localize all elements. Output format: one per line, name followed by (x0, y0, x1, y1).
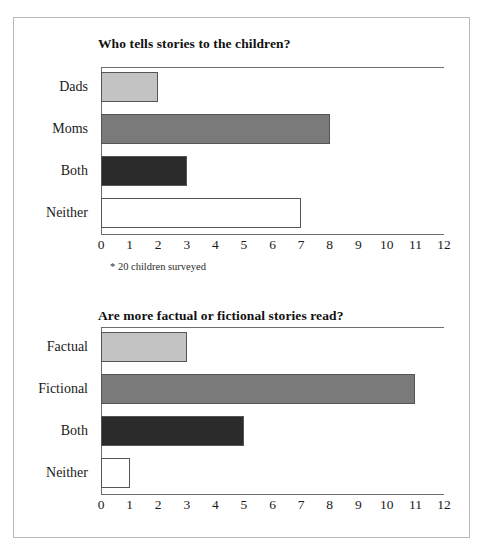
bar-row: Neither (101, 198, 444, 228)
bar-moms (101, 114, 330, 144)
x-tick-11: 11 (409, 237, 422, 253)
chart-who-tells-stories: Who tells stories to the children? DadsM… (14, 18, 471, 290)
x-tick-5: 5 (241, 497, 248, 513)
x-tick-12: 12 (437, 497, 451, 513)
bar-row: Both (101, 156, 444, 186)
x-tick-3: 3 (183, 497, 190, 513)
x-tick-8: 8 (326, 497, 333, 513)
footnote-top: * 20 children surveyed (110, 261, 206, 272)
bar-row: Fictional (101, 374, 444, 404)
category-label-moms: Moms (52, 121, 88, 137)
x-tick-2: 2 (155, 237, 162, 253)
x-tick-10: 10 (380, 497, 394, 513)
x-tick-4: 4 (212, 237, 219, 253)
category-label-both: Both (61, 163, 88, 179)
x-axis-ticks-bottom: 0123456789101112 (101, 497, 444, 517)
bar-fictional (101, 374, 415, 404)
bar-row: Dads (101, 72, 444, 102)
axis-bottom-rule-bottom-chart (101, 494, 444, 495)
bar-neither (101, 198, 301, 228)
plot-area-top: DadsMomsBothNeither (101, 67, 444, 235)
x-tick-4: 4 (212, 497, 219, 513)
chart-factual-or-fictional: Are more factual or fictional stories re… (14, 290, 471, 539)
bar-both (101, 156, 187, 186)
chart-title-bottom: Are more factual or fictional stories re… (98, 308, 344, 324)
bar-row: Moms (101, 114, 444, 144)
x-tick-12: 12 (437, 237, 451, 253)
x-tick-10: 10 (380, 237, 394, 253)
x-tick-7: 7 (298, 497, 305, 513)
category-label-both: Both (61, 423, 88, 439)
bar-row: Factual (101, 332, 444, 362)
bar-both (101, 416, 244, 446)
axis-top-rule-top-chart (101, 67, 444, 68)
category-label-dads: Dads (59, 79, 88, 95)
plot-area-bottom: FactualFictionalBothNeither (101, 327, 444, 495)
bar-neither (101, 458, 130, 488)
category-label-neither: Neither (46, 465, 88, 481)
x-tick-9: 9 (355, 237, 362, 253)
bar-row: Neither (101, 458, 444, 488)
category-label-fictional: Fictional (38, 381, 88, 397)
x-tick-8: 8 (326, 237, 333, 253)
x-tick-11: 11 (409, 497, 422, 513)
x-tick-9: 9 (355, 497, 362, 513)
category-label-factual: Factual (47, 339, 88, 355)
x-tick-1: 1 (126, 497, 133, 513)
x-tick-2: 2 (155, 497, 162, 513)
x-tick-3: 3 (183, 237, 190, 253)
x-tick-0: 0 (98, 237, 105, 253)
figure-frame: Who tells stories to the children? DadsM… (13, 17, 470, 538)
x-tick-6: 6 (269, 497, 276, 513)
x-axis-ticks-top: 0123456789101112 (101, 237, 444, 257)
x-tick-1: 1 (126, 237, 133, 253)
axis-bottom-rule-top-chart (101, 234, 444, 235)
bar-factual (101, 332, 187, 362)
x-tick-0: 0 (98, 497, 105, 513)
bar-row: Both (101, 416, 444, 446)
x-tick-7: 7 (298, 237, 305, 253)
bar-dads (101, 72, 158, 102)
axis-top-rule-bottom-chart (101, 327, 444, 328)
x-tick-5: 5 (241, 237, 248, 253)
x-tick-6: 6 (269, 237, 276, 253)
chart-title-top: Who tells stories to the children? (98, 36, 291, 52)
category-label-neither: Neither (46, 205, 88, 221)
